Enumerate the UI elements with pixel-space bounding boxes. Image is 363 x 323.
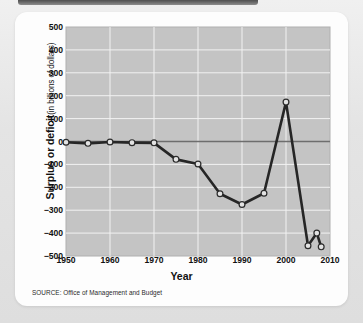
x-tick-label: 2000 (264, 255, 308, 265)
chart-card: Surplus or deficit(in billions of dollar… (15, 12, 348, 306)
data-point-marker (107, 139, 113, 145)
chart-figure: Surplus or deficit(in billions of dollar… (15, 12, 348, 306)
data-point-marker (63, 139, 69, 145)
y-tick-label: 100 (19, 114, 63, 124)
x-tick-label: 1970 (132, 255, 176, 265)
x-axis-title: Year (15, 270, 348, 282)
x-tick-label: 2010 (308, 255, 352, 265)
data-point-marker (261, 190, 267, 196)
y-tick-label: 0 (19, 137, 63, 147)
y-tick-label: 500 (19, 22, 63, 32)
data-point-marker (283, 99, 289, 105)
x-tick-label: 1990 (220, 255, 264, 265)
top-header-bar (18, 0, 258, 5)
source-note: SOURCE: Office of Management and Budget (32, 289, 162, 296)
data-point-marker (314, 230, 320, 236)
y-tick-label: −100 (19, 159, 63, 169)
data-point-marker (173, 156, 179, 162)
data-point-marker (151, 140, 157, 146)
data-point-marker (305, 243, 311, 249)
y-tick-label: 300 (19, 68, 63, 78)
data-point-marker (195, 161, 201, 167)
data-point-marker (217, 191, 223, 197)
data-point-marker (85, 140, 91, 146)
y-tick-label: 400 (19, 45, 63, 55)
data-point-marker (129, 140, 135, 146)
x-tick-label: 1980 (176, 255, 220, 265)
x-tick-label: 1960 (88, 255, 132, 265)
y-tick-label: 200 (19, 91, 63, 101)
y-tick-label: −300 (19, 205, 63, 215)
y-tick-label: −400 (19, 228, 63, 238)
data-point-marker (318, 244, 324, 250)
x-tick-label: 1950 (44, 255, 88, 265)
data-point-marker (239, 202, 245, 208)
y-tick-label: −200 (19, 182, 63, 192)
